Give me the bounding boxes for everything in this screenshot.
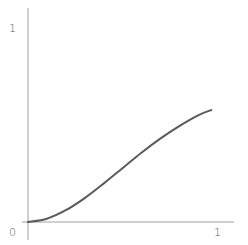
data-curve: [28, 110, 211, 222]
x-tick-label-1: 1: [214, 226, 221, 239]
origin-label: 0: [9, 226, 16, 239]
chart-canvas: [0, 0, 248, 245]
y-tick-label-1: 1: [9, 22, 16, 35]
